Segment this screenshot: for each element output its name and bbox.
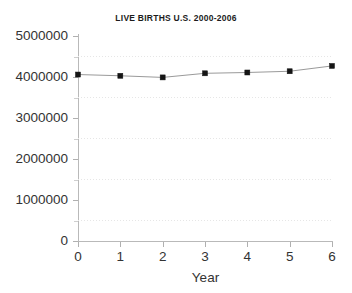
x-axis-tick-label: 0 [63,250,93,264]
y-axis-tick-label: 3000000 [15,111,68,125]
x-axis-tick-label: 3 [190,250,220,264]
x-axis-tick-label: 1 [105,250,135,264]
x-axis-tick [163,242,164,247]
x-axis-tick [120,242,121,247]
x-axis-tick-label: 5 [275,250,305,264]
x-axis-tick-label: 6 [317,250,347,264]
y-axis-tick-label: 4000000 [15,70,68,84]
line-chart: LIVE BIRTHS U.S. 2000-2006 0100000020000… [0,0,352,293]
x-axis-tick [78,242,79,247]
data-point-marker [160,75,165,80]
x-axis-tick [247,242,248,247]
y-axis-tick-label: 5000000 [15,29,68,43]
x-axis-tick [205,242,206,247]
y-axis-tick-label: 2000000 [15,152,68,166]
data-point-marker [76,72,81,77]
data-point-marker [245,70,250,75]
y-axis-tick-label: 1000000 [15,193,68,207]
x-axis-tick-label: 4 [232,250,262,264]
data-point-marker [203,71,208,76]
chart-title: LIVE BIRTHS U.S. 2000-2006 [0,13,352,23]
y-axis-tick-label: 0 [60,234,68,248]
x-axis-tick [290,242,291,247]
x-axis-tick [332,242,333,247]
x-axis-tick-label: 2 [148,250,178,264]
data-point-marker [330,63,335,68]
data-series-live-births [78,36,332,241]
plot-area [78,36,332,241]
data-point-marker [287,69,292,74]
x-axis-title: Year [78,270,333,285]
data-point-marker [118,73,123,78]
